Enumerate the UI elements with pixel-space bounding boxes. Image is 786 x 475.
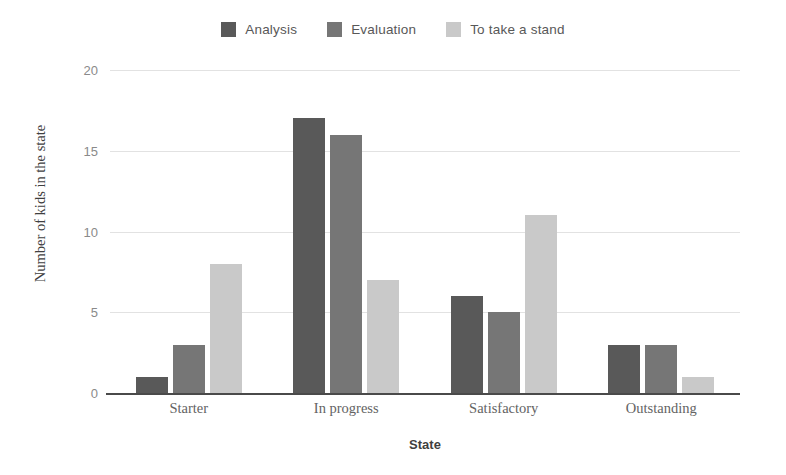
bar[interactable]	[488, 312, 520, 393]
x-tick-label: In progress	[268, 400, 426, 417]
bar[interactable]	[682, 377, 714, 393]
x-axis-ticks: StarterIn progressSatisfactoryOutstandin…	[110, 400, 740, 417]
y-tick-label-0: 0	[56, 386, 98, 401]
y-tick-label-20: 20	[56, 63, 98, 78]
bar-chart: Analysis Evaluation To take a stand Numb…	[0, 0, 786, 475]
bar[interactable]	[608, 345, 640, 393]
legend-item-to-take-a-stand[interactable]: To take a stand	[446, 22, 565, 37]
y-tick-label-5: 5	[56, 305, 98, 320]
legend-label-to-take-a-stand: To take a stand	[470, 22, 565, 37]
x-axis-title: State	[110, 437, 740, 452]
x-tick-label: Outstanding	[583, 400, 741, 417]
bar-group	[583, 70, 741, 393]
legend-label-analysis: Analysis	[245, 22, 297, 37]
bar[interactable]	[525, 215, 557, 393]
bar-group	[425, 70, 583, 393]
bar[interactable]	[645, 345, 677, 393]
bar[interactable]	[173, 345, 205, 393]
legend-swatch-analysis	[221, 22, 236, 37]
bar-groups	[110, 70, 740, 393]
legend-swatch-to-take-a-stand	[446, 22, 461, 37]
y-tick-label-15: 15	[56, 143, 98, 158]
y-tick-label-10: 10	[56, 224, 98, 239]
legend-item-evaluation[interactable]: Evaluation	[327, 22, 416, 37]
bar-group	[110, 70, 268, 393]
plot-area	[110, 70, 740, 393]
y-axis-ticks: 05101520	[52, 70, 98, 393]
legend-swatch-evaluation	[327, 22, 342, 37]
bar[interactable]	[330, 135, 362, 393]
bar[interactable]	[367, 280, 399, 393]
x-tick-label: Satisfactory	[425, 400, 583, 417]
x-tick-label: Starter	[110, 400, 268, 417]
y-axis-title: Number of kids in the state	[32, 89, 49, 319]
x-axis-line	[106, 393, 740, 395]
bar-group	[268, 70, 426, 393]
bar[interactable]	[451, 296, 483, 393]
legend-item-analysis[interactable]: Analysis	[221, 22, 297, 37]
chart-legend: Analysis Evaluation To take a stand	[0, 22, 786, 37]
bar[interactable]	[136, 377, 168, 393]
bar[interactable]	[293, 118, 325, 393]
legend-label-evaluation: Evaluation	[351, 22, 416, 37]
bar[interactable]	[210, 264, 242, 393]
